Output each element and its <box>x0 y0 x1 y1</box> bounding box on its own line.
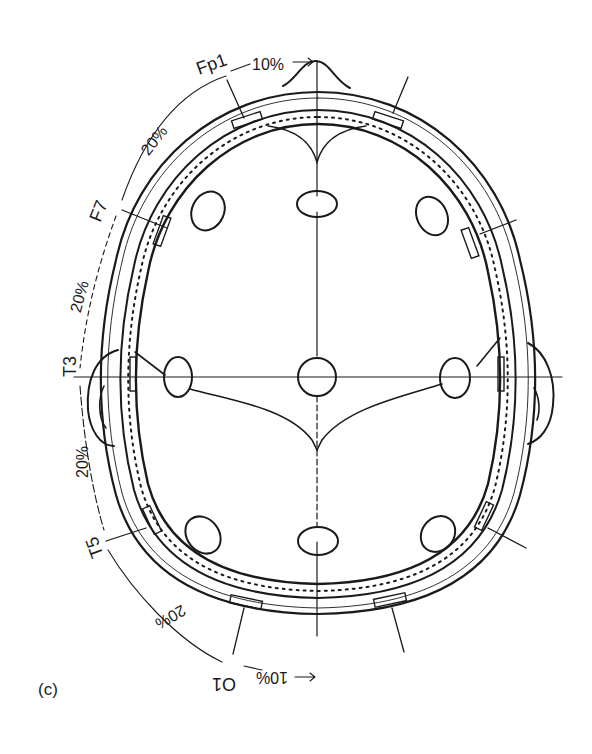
label-10pct-back: 10% <box>256 669 288 686</box>
label-t5: T5 <box>82 534 108 561</box>
temporal-line-left <box>135 352 165 375</box>
panel-label: (c) <box>38 680 58 700</box>
electrode-pz <box>298 527 338 555</box>
label-f7: F7 <box>85 198 111 225</box>
arrow-to-inion <box>295 673 315 681</box>
arrow-to-nose <box>293 58 313 66</box>
label-20pct-f7-t3: 20% <box>67 279 92 314</box>
label-t3: T3 <box>60 356 80 377</box>
skull-inner <box>136 124 500 584</box>
label-20pct-t3-t5: 20% <box>74 446 91 478</box>
lead-t5 <box>106 528 146 541</box>
label-20pct-t5-o1: 20% <box>153 602 189 633</box>
tentorium-right <box>317 384 442 450</box>
skull-outer <box>121 110 516 598</box>
arc-nasion-fp1 <box>231 64 250 71</box>
scalp-inner-line <box>108 98 529 608</box>
label-20pct-fp1-f7: 20% <box>137 123 170 159</box>
head-diagram: Fp1 10% 20% F7 20% T3 20% T5 20% O1 10% <box>0 0 592 754</box>
lead-o1 <box>233 608 244 654</box>
pad-fp1 <box>231 112 262 129</box>
label-fp1: Fp1 <box>194 49 230 78</box>
electrode-c4 <box>440 358 470 398</box>
electrode-p4 <box>414 509 463 559</box>
electrode-f4 <box>410 192 454 241</box>
electrode-p3 <box>178 509 228 560</box>
temporal-line-right <box>477 338 500 366</box>
label-o1: O1 <box>212 674 236 694</box>
electrode-f3 <box>185 186 231 236</box>
tentorium-left <box>190 389 317 450</box>
lead-o2 <box>392 608 404 652</box>
label-10pct-front: 10% <box>252 56 284 73</box>
lead-t6 <box>488 528 526 548</box>
pad-fp2 <box>372 112 403 129</box>
lead-fp2 <box>393 77 408 113</box>
